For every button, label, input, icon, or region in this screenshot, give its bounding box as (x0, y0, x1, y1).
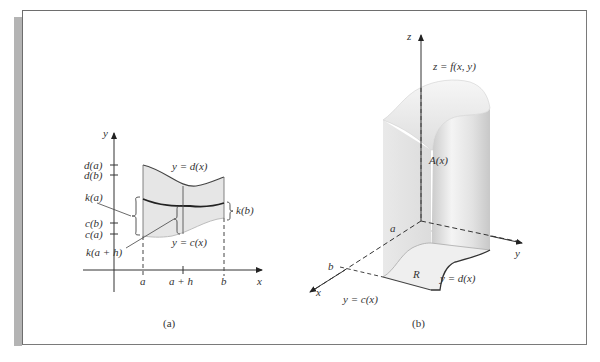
panel-a: y d(a) d(b) k(a) c(b) c(a) k(a + h) k(b)… (83, 127, 262, 330)
tick-label-d-b: d(b) (84, 169, 103, 182)
x-axis-label-a: x (256, 275, 262, 287)
y-axis-label-b: y (514, 247, 520, 259)
label-curve-d-b: y = d(x) (439, 272, 476, 285)
region-fill (143, 165, 224, 237)
tick-label-c-a: c(a) (85, 228, 103, 241)
caption-a: (a) (163, 317, 176, 330)
x-mark-b: b (328, 260, 334, 272)
figure-canvas: y d(a) d(b) k(a) c(b) c(a) k(a + h) k(b)… (0, 0, 600, 362)
label-k-a-plus-h: k(a + h) (86, 246, 122, 259)
x-tick-a: a (140, 275, 146, 287)
x-tick-b: b (221, 275, 227, 287)
region-label: R (412, 268, 420, 280)
label-k-b: k(b) (236, 204, 254, 217)
brace-k-b (227, 202, 233, 220)
surface-label: z = f(x, y) (432, 60, 476, 73)
panel-b: z z = f(x, y) A(x) a b R y = d(x) y = c(… (310, 30, 522, 330)
x-axis-label-b: x (315, 286, 321, 298)
y-axis-label-a: y (102, 127, 108, 139)
caption-b: (b) (412, 317, 425, 330)
x-mark-a: a (390, 222, 396, 234)
brace-k-a (132, 197, 140, 235)
z-axis-label: z (406, 30, 412, 42)
label-curve-c-b: y = c(x) (342, 293, 378, 306)
area-label: A(x) (428, 154, 448, 167)
tick-label-k-a: k(a) (85, 191, 103, 204)
label-curve-d-a: y = d(x) (171, 160, 208, 173)
label-curve-c-a: y = c(x) (171, 236, 207, 249)
x-tick-a-plus-h: a + h (169, 275, 193, 287)
